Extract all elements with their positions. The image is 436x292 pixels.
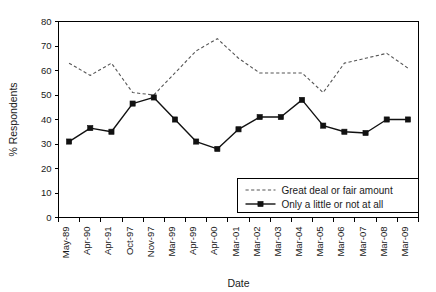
line-chart-canvas: 01020304050607080% RespondentsMay-89Apr-…: [0, 0, 436, 292]
y-axis-tick-label: 60: [41, 65, 52, 76]
data-point-marker: [342, 129, 347, 134]
y-axis-title: % Respondents: [7, 82, 19, 156]
legend-label: Great deal or fair amount: [282, 185, 393, 196]
y-axis-tick-label: 80: [41, 16, 52, 27]
x-axis-tick-label: May-89: [60, 227, 71, 259]
x-axis-tick-label: Apr-99: [187, 227, 198, 256]
x-axis-tick-label: Mar-09: [399, 227, 410, 257]
series-line-1: [69, 39, 408, 95]
y-axis-tick-label: 50: [41, 89, 52, 100]
x-axis-tick-label: Apr-00: [208, 227, 219, 256]
data-point-marker: [321, 123, 326, 128]
data-point-marker: [299, 97, 304, 102]
data-point-marker: [194, 139, 199, 144]
data-point-marker: [215, 146, 220, 151]
data-point-marker: [236, 127, 241, 132]
x-axis-tick-label: Nov-97: [145, 227, 156, 258]
y-axis-tick-label: 40: [41, 114, 52, 125]
data-point-marker: [130, 101, 135, 106]
y-axis-tick-label: 0: [46, 212, 51, 223]
data-point-marker: [109, 129, 114, 134]
series-line-2: [69, 97, 408, 148]
x-axis-tick-label: Mar-05: [314, 227, 325, 257]
x-axis-tick-label: Mar-02: [251, 227, 262, 257]
x-axis-tick-label: Mar-08: [378, 227, 389, 257]
data-point-marker: [172, 117, 177, 122]
chart-figure: 01020304050607080% RespondentsMay-89Apr-…: [0, 0, 436, 292]
data-point-marker: [151, 95, 156, 100]
data-point-marker: [66, 139, 71, 144]
x-axis-tick-label: Mar-06: [335, 227, 346, 257]
data-point-marker: [405, 117, 410, 122]
x-axis-tick-label: Mar-03: [272, 227, 283, 257]
y-axis-tick-label: 20: [41, 163, 52, 174]
x-axis-title: Date: [227, 277, 249, 289]
x-axis-tick-label: Oct-97: [124, 227, 135, 256]
x-axis-tick-label: Apr-91: [102, 227, 113, 256]
legend-marker: [258, 201, 263, 206]
data-point-marker: [363, 130, 368, 135]
x-axis-tick-label: Apr-90: [81, 227, 92, 256]
x-axis-tick-label: Mar-99: [166, 227, 177, 257]
x-axis-tick-label: Mar-01: [230, 227, 241, 257]
data-point-marker: [88, 125, 93, 130]
data-point-marker: [278, 114, 283, 119]
data-point-marker: [384, 117, 389, 122]
y-axis-tick-label: 10: [41, 187, 52, 198]
data-point-marker: [257, 114, 262, 119]
legend-label: Only a little or not at all: [282, 199, 384, 210]
x-axis-tick-label: Mar-07: [357, 227, 368, 257]
x-axis-tick-label: Mar-04: [293, 227, 304, 257]
y-axis-tick-label: 70: [41, 40, 52, 51]
y-axis-tick-label: 30: [41, 138, 52, 149]
